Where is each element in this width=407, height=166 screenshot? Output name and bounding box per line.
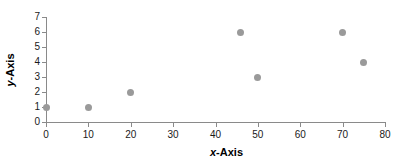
y-axis-tick-label: 5 bbox=[34, 42, 40, 52]
y-axis-tick bbox=[42, 47, 46, 48]
data-point bbox=[127, 89, 134, 96]
y-axis-tick-label: 2 bbox=[34, 87, 40, 97]
x-axis-tick-label: 40 bbox=[210, 130, 221, 140]
x-axis-tick-label: 80 bbox=[379, 130, 390, 140]
data-point bbox=[360, 59, 367, 66]
data-point bbox=[43, 104, 50, 111]
y-axis-tick bbox=[42, 62, 46, 63]
y-axis-tick bbox=[42, 17, 46, 18]
data-point bbox=[339, 29, 346, 36]
x-axis-tick bbox=[300, 123, 301, 127]
x-axis-tick-label: 20 bbox=[125, 130, 136, 140]
x-axis-tick bbox=[385, 123, 386, 127]
x-axis-tick bbox=[88, 123, 89, 127]
x-axis-title: x-Axis bbox=[0, 147, 407, 158]
y-axis-tick-label: 0 bbox=[34, 117, 40, 127]
x-axis-tick-label: 60 bbox=[295, 130, 306, 140]
y-axis-title: y-Axis bbox=[5, 53, 16, 86]
y-axis-tick-label: 7 bbox=[34, 12, 40, 22]
x-axis-tick-label: 30 bbox=[168, 130, 179, 140]
x-axis-tick bbox=[46, 123, 47, 127]
x-axis-tick bbox=[216, 123, 217, 127]
x-axis-tick-label: 50 bbox=[252, 130, 263, 140]
x-axis-tick bbox=[343, 123, 344, 127]
data-point bbox=[85, 104, 92, 111]
y-axis-tick bbox=[42, 32, 46, 33]
y-axis-tick bbox=[42, 77, 46, 78]
y-axis-tick-label: 1 bbox=[34, 102, 40, 112]
y-axis-tick bbox=[42, 92, 46, 93]
x-axis-tick-label: 0 bbox=[43, 130, 49, 140]
x-axis-tick bbox=[258, 123, 259, 127]
y-axis-tick-label: 4 bbox=[34, 57, 40, 67]
scatter-chart: 01020304050607080 01234567 x-Axis y-Axis bbox=[0, 0, 407, 166]
x-axis-tick-label: 10 bbox=[83, 130, 94, 140]
x-axis-tick bbox=[173, 123, 174, 127]
data-point bbox=[254, 74, 261, 81]
y-axis-tick bbox=[42, 122, 46, 123]
x-axis-tick-label: 70 bbox=[337, 130, 348, 140]
y-axis-tick-label: 6 bbox=[34, 27, 40, 37]
y-axis-tick-label: 3 bbox=[34, 72, 40, 82]
data-point bbox=[237, 29, 244, 36]
x-axis-tick bbox=[131, 123, 132, 127]
